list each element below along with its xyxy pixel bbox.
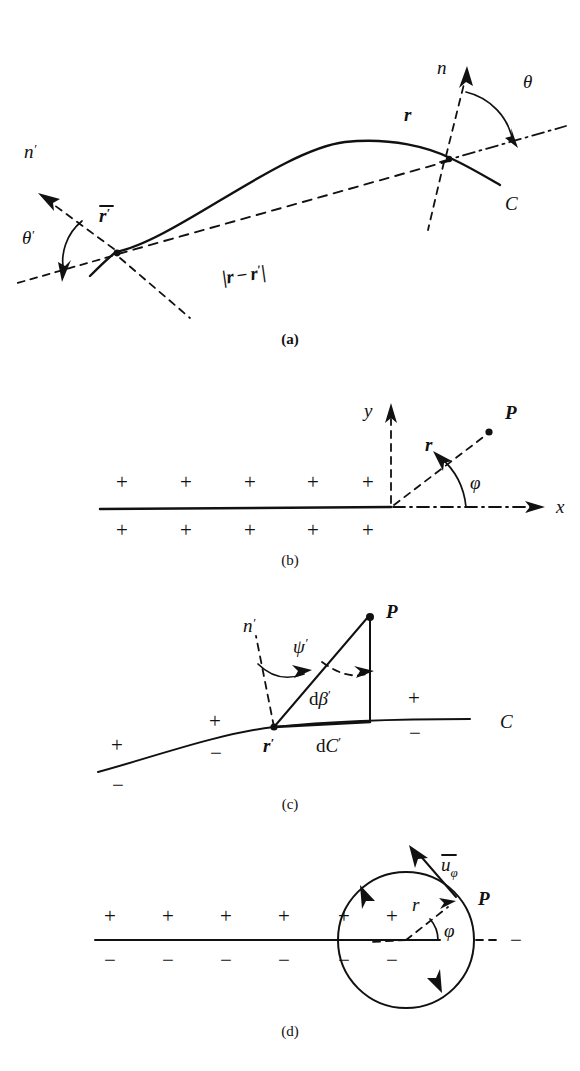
- label-radius-r-b: r: [425, 434, 433, 455]
- chord-distance-line: [118, 160, 452, 254]
- sign-plus-above: +: [116, 470, 128, 494]
- normal-n-line-upper: [446, 76, 466, 156]
- label-r-vector: r: [404, 104, 412, 125]
- caption-c-wrap: (c): [0, 795, 580, 813]
- sign-plus-above-d: +: [104, 904, 116, 928]
- source-sheet-line-b: [100, 507, 391, 509]
- normal-n-line-lower: [428, 162, 444, 230]
- angle-phi-arc-d: [430, 919, 438, 940]
- caption-a-wrap: (a): [0, 330, 580, 348]
- caption-c: (c): [282, 796, 299, 812]
- angle-thetaprime-arrowhead: [58, 260, 71, 282]
- curve-c-a: [116, 141, 450, 252]
- label-distance: |r−r′|: [221, 261, 267, 288]
- sign-plus-above: +: [362, 470, 374, 494]
- label-angle-phi-b: φ: [470, 472, 481, 493]
- angle-theta-arrowhead: [505, 128, 518, 148]
- label-point-P-b: P: [504, 402, 517, 423]
- angle-theta-arc: [466, 92, 513, 142]
- sign-plus-curve-c: +: [111, 733, 123, 757]
- sign-minus-below-d: −: [278, 948, 290, 972]
- sign-plus-below: +: [116, 518, 128, 542]
- sign-plus-above-d: +: [278, 904, 290, 928]
- normal-n-arrowhead: [459, 66, 473, 88]
- angle-thetaprime-arc: [63, 221, 82, 273]
- sign-plus-above: +: [180, 470, 192, 494]
- label-n-prime: n′: [24, 141, 37, 162]
- sign-minus-below-d: −: [220, 948, 232, 972]
- label-unit-vector-u-phi: uφ: [441, 854, 458, 880]
- label-radius-r-d: r: [412, 894, 420, 915]
- sign-minus-below-d: −: [386, 948, 398, 972]
- label-curve-c: C: [505, 193, 518, 214]
- panel-c: n′ ψ′ P r′ dβ′ dC′ C + + + − − −: [0, 600, 580, 800]
- ray-rprime-to-P: [274, 617, 368, 727]
- label-point-P-c: P: [385, 601, 398, 622]
- figure-root: n θ r C n′ θ′ r′ |r−r′|: [0, 0, 580, 1071]
- unit-vector-arrowhead: [409, 845, 428, 868]
- caption-b-wrap: (b): [0, 551, 580, 569]
- point-rprime-marker-c: [270, 723, 277, 730]
- point-P-marker-c: [366, 613, 374, 621]
- sign-plus-curve-c: +: [408, 686, 420, 710]
- angle-phi-arrowhead-b: [433, 451, 452, 471]
- sign-plus-curve-c: +: [209, 709, 221, 733]
- sign-plus-above-d: +: [386, 904, 398, 928]
- label-rprime-c: r′: [263, 735, 274, 756]
- svg-text:|r−r′|: |r−r′|: [221, 261, 267, 288]
- sign-plus-above-d: +: [220, 904, 232, 928]
- radius-r-line: [394, 435, 486, 505]
- caption-d-wrap: (d): [0, 1022, 580, 1040]
- sign-plus-above-d: +: [338, 904, 350, 928]
- contour-arrowhead-lower: [427, 969, 442, 993]
- contour-arrowhead-upper: [360, 885, 375, 909]
- axis-x-arrowhead: [525, 501, 545, 513]
- panel-b: + + + + + + + + + + y x r φ P: [0, 385, 580, 560]
- sign-plus-above: +: [307, 470, 319, 494]
- panel-a: n θ r C n′ θ′ r′ |r−r′|: [0, 30, 580, 330]
- sign-minus-curve-c: −: [210, 741, 222, 765]
- point-r-marker: [446, 156, 452, 162]
- tangent-line-r: [440, 126, 566, 162]
- label-dc-prime: dC′: [316, 734, 341, 756]
- caption-a: (a): [281, 331, 299, 347]
- svg-text:uφ: uφ: [441, 854, 458, 880]
- label-n: n: [437, 57, 447, 78]
- angle-phi-arc-b: [440, 457, 466, 507]
- sign-minus-below-d: −: [338, 948, 350, 972]
- panel-d: + + + + + + − − − − − − − uφ P r φ: [0, 845, 580, 1035]
- sign-plus-below: +: [307, 518, 319, 542]
- sign-plus-above: +: [244, 470, 256, 494]
- label-axis-x: x: [555, 496, 565, 517]
- normal-nprime-arrowhead: [38, 193, 60, 211]
- label-curve-c-c: C: [500, 711, 513, 732]
- svg-text:r′: r′: [99, 205, 110, 226]
- sign-plus-below: +: [362, 518, 374, 542]
- point-rprime-marker: [114, 250, 121, 257]
- sign-minus-right-d: −: [510, 928, 522, 952]
- point-P-marker-b: [485, 428, 492, 435]
- label-rbar-prime: r′: [99, 205, 113, 226]
- label-psi-prime: ψ′: [293, 635, 308, 657]
- label-dbeta-prime: dβ′: [309, 687, 331, 709]
- sign-plus-above-d: +: [162, 904, 174, 928]
- sign-minus-below-d: −: [162, 948, 174, 972]
- label-n-prime-c: n′: [243, 615, 256, 636]
- label-theta: θ: [523, 71, 532, 92]
- sign-minus-curve-c: −: [409, 721, 421, 745]
- curve-c-a-tail: [450, 158, 500, 185]
- caption-b: (b): [281, 552, 299, 568]
- sign-minus-below-d: −: [104, 948, 116, 972]
- label-theta-prime: θ′: [22, 227, 34, 248]
- normal-nprime-line-c: [256, 636, 274, 727]
- tangent-line-rprime-right: [120, 258, 190, 318]
- sign-plus-below: +: [180, 518, 192, 542]
- label-angle-phi-d: φ: [444, 920, 455, 941]
- sign-minus-curve-c: −: [112, 773, 124, 797]
- sign-plus-below: +: [244, 518, 256, 542]
- label-point-P-d: P: [477, 888, 490, 909]
- label-axis-y: y: [362, 400, 373, 421]
- caption-d: (d): [281, 1023, 299, 1039]
